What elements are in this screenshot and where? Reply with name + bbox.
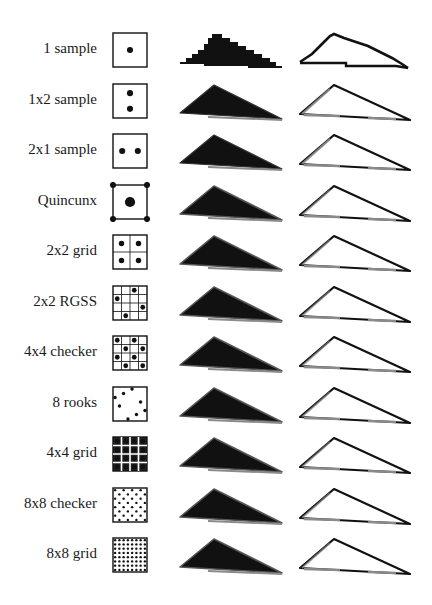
pattern-row-2x2-grid: 2x2 grid [0,228,432,276]
filled-triangle-result [178,331,286,375]
sample-pattern-diagram [110,535,150,575]
pattern-row-1-sample: 1 sample [0,26,432,74]
outline-triangle-result [296,331,414,375]
pattern-row-4x4-grid: 4x4 grid [0,430,432,478]
filled-triangle-result [178,483,286,527]
outline-triangle-result [296,483,414,527]
pattern-label: 8x8 checker [24,495,97,512]
pattern-label: 4x4 grid [47,444,97,461]
filled-triangle-result [178,281,286,325]
sample-pattern-diagram [110,384,150,424]
filled-triangle-result [178,382,286,426]
pattern-label: 8x8 grid [47,545,97,562]
pattern-row-2x2-rgss: 2x2 RGSS [0,279,432,327]
filled-triangle-result [178,230,286,274]
filled-triangle-result [178,180,286,224]
pattern-label: Quincunx [38,192,97,209]
pattern-label: 2x1 sample [28,141,97,158]
sample-pattern-diagram [110,81,150,121]
pattern-row-2x1-sample: 2x1 sample [0,127,432,175]
outline-triangle-result [296,281,414,325]
outline-triangle-result [296,230,414,274]
sample-pattern-diagram [110,485,150,525]
outline-triangle-result [296,382,414,426]
sample-pattern-diagram [110,434,150,474]
pattern-label: 8 rooks [52,394,97,411]
sample-pattern-diagram [110,333,150,373]
outline-triangle-result [296,180,414,224]
outline-triangle-result [296,79,414,123]
outline-triangle-result [296,432,414,476]
pattern-row-8x8-checker: 8x8 checker [0,481,432,529]
sample-pattern-diagram [110,182,150,222]
pattern-row-8-rooks: 8 rooks [0,380,432,428]
filled-triangle-result [178,533,286,577]
pattern-row-8x8-grid: 8x8 grid [0,531,432,579]
outline-triangle-result [296,533,414,577]
pattern-row-4x4-checker: 4x4 checker [0,329,432,377]
filled-triangle-result [178,28,286,72]
sample-pattern-diagram [110,283,150,323]
pattern-label: 2x2 RGSS [33,293,97,310]
pattern-label: 2x2 grid [47,242,97,259]
pattern-row-1x2-sample: 1x2 sample [0,77,432,125]
sample-pattern-diagram [110,232,150,272]
sample-pattern-diagram [110,30,150,70]
sample-pattern-diagram [110,131,150,171]
filled-triangle-result [178,432,286,476]
pattern-row-quincunx: Quincunx [0,178,432,226]
filled-triangle-result [178,129,286,173]
outline-triangle-result [296,129,414,173]
pattern-label: 4x4 checker [24,343,97,360]
pattern-label: 1x2 sample [28,91,97,108]
pattern-label: 1 sample [43,40,97,57]
filled-triangle-result [178,79,286,123]
outline-triangle-result [296,28,414,72]
